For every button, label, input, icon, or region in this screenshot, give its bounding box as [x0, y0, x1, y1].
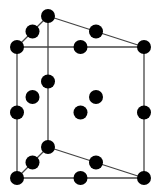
- atom-bottom-front-edge-mid: [74, 171, 88, 185]
- atom-interior-right: [89, 90, 103, 104]
- atom-back-edge-mid: [41, 75, 55, 89]
- cell-atoms: [10, 9, 151, 185]
- atom-bottom-right-front-corner: [137, 171, 151, 185]
- atom-front-face-center: [74, 106, 88, 120]
- atom-bottom-left-front-corner: [10, 171, 24, 185]
- atom-top-right-front-corner: [137, 40, 151, 54]
- atom-bottom-diagonal-mid: [89, 156, 103, 170]
- atom-interior-left: [26, 90, 40, 104]
- atom-left-front-edge-mid: [10, 106, 24, 120]
- atom-top-diagonal-mid: [89, 25, 103, 39]
- unit-cell-diagram: [0, 0, 161, 195]
- atom-bottom-left-edge-mid: [26, 156, 40, 170]
- atom-right-front-edge-mid: [137, 106, 151, 120]
- atom-top-front-edge-mid: [74, 40, 88, 54]
- atom-top-left-front-corner: [10, 40, 24, 54]
- atom-top-back-corner: [41, 9, 55, 23]
- atom-top-left-edge-mid: [26, 25, 40, 39]
- atom-bottom-back-corner: [41, 140, 55, 154]
